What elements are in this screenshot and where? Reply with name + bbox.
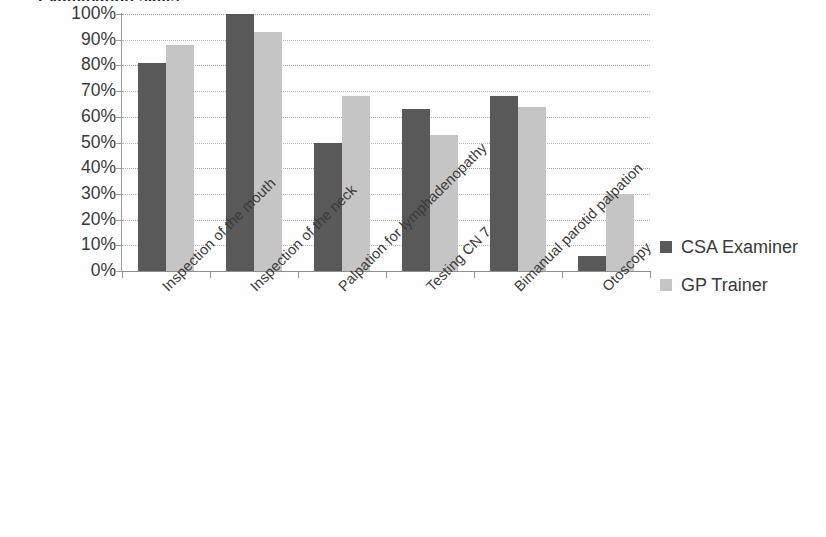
legend-item[interactable]: GP Trainer [660, 266, 826, 304]
x-axis-category-label: Palpation for lymphadenopathy [335, 140, 490, 295]
x-axis-tick [562, 271, 563, 278]
y-axis-tick [116, 143, 122, 144]
legend-item[interactable]: CSA Examiner [660, 228, 826, 266]
y-axis-tick [116, 91, 122, 92]
x-axis-tick [298, 271, 299, 278]
legend-label: GP Trainer [681, 275, 768, 296]
y-axis-tick [116, 220, 122, 221]
x-axis-tick [210, 271, 211, 278]
x-axis-tick [122, 271, 123, 278]
y-axis-tick [116, 117, 122, 118]
y-axis-tick [116, 65, 122, 66]
y-axis-tick [116, 40, 122, 41]
y-axis-tick [116, 14, 122, 15]
y-axis-tick [116, 245, 122, 246]
x-axis-category-label: Testing CN 7 [423, 223, 494, 294]
x-axis-tick [386, 271, 387, 278]
bar-chart: Examination skills 100%90%80%70%60%50%40… [0, 0, 826, 537]
x-axis-tick [650, 271, 651, 278]
legend-swatch-icon [660, 241, 672, 253]
y-axis-tick [116, 168, 122, 169]
legend-swatch-icon [660, 279, 672, 291]
legend-label: CSA Examiner [681, 237, 798, 258]
legend: CSA Examiner GP Trainer [660, 228, 826, 304]
x-axis-category-label: Otoscopy [599, 239, 654, 294]
y-axis-tick [116, 194, 122, 195]
x-axis-tick [474, 271, 475, 278]
